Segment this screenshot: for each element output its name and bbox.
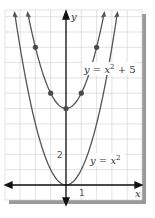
series-label-text: y = x: [83, 64, 110, 75]
label-x2: y = x2: [89, 153, 125, 166]
coordinate-graph: y x 1 2 y = x2 + 5 y = x2: [0, 0, 155, 218]
y-axis-label: y: [70, 11, 77, 22]
data-point: [33, 45, 38, 50]
svg-text:y = x2: y = x2: [89, 154, 121, 166]
x-axis-label: x: [135, 188, 141, 199]
data-point: [94, 45, 99, 50]
label-x2-plus-5: y = x2 + 5: [83, 62, 136, 75]
svg-text:y = x2 + 5: y = x2 + 5: [83, 63, 136, 75]
series-label-exponent: 2: [116, 154, 120, 162]
data-point: [79, 91, 84, 96]
x-tick-label-1: 1: [79, 188, 85, 198]
data-point: [63, 106, 68, 111]
y-tick-label-2: 2: [57, 150, 63, 160]
data-point: [48, 91, 53, 96]
series-label-suffix: + 5: [115, 64, 136, 75]
series-label-text: y = x: [89, 155, 116, 166]
